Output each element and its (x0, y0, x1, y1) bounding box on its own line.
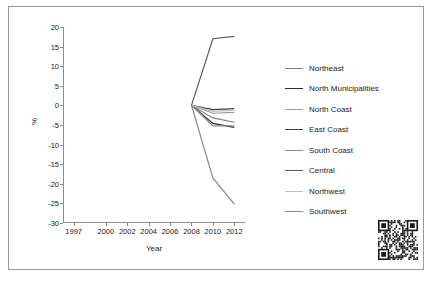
legend-swatch (285, 211, 303, 212)
legend-label: Northwest (309, 187, 345, 196)
legend-label: Northeast (309, 64, 344, 73)
x-tick-mark (234, 223, 235, 226)
legend-label: Southwest (309, 207, 346, 216)
x-tick-mark (74, 223, 75, 226)
legend-swatch (285, 68, 303, 69)
y-tick-label: 20 (51, 23, 59, 32)
x-tick-label: 2006 (162, 227, 179, 236)
x-tick-mark (170, 223, 171, 226)
legend-item[interactable]: Northeast (285, 58, 415, 79)
legend-label: South Coast (309, 146, 353, 155)
y-tick-label: -30 (48, 219, 59, 228)
x-tick-mark (106, 223, 107, 226)
legend-label: North Coast (309, 105, 352, 114)
x-tick-mark (213, 223, 214, 226)
legend-item[interactable]: Southwest (285, 202, 415, 223)
legend-label: East Coast (309, 125, 348, 134)
legend-swatch (285, 88, 303, 89)
legend-swatch (285, 170, 303, 171)
legend-item[interactable]: Northwest (285, 181, 415, 202)
x-tick-mark (127, 223, 128, 226)
legend-swatch (285, 129, 303, 130)
y-tick-label: -25 (48, 199, 59, 208)
y-tick-label: -5 (52, 121, 59, 130)
legend-label: North Municipalities (309, 84, 379, 93)
y-tick-label: 0 (55, 101, 59, 110)
y-tick-mark (60, 203, 63, 204)
y-tick-mark (60, 105, 63, 106)
y-tick-mark (60, 223, 63, 224)
x-tick-mark (149, 223, 150, 226)
x-tick-label: 2010 (205, 227, 222, 236)
y-tick-mark (60, 47, 63, 48)
y-tick-mark (60, 66, 63, 67)
y-tick-mark (60, 184, 63, 185)
x-tick-label: 2002 (119, 227, 136, 236)
y-tick-mark (60, 145, 63, 146)
legend-item[interactable]: South Coast (285, 140, 415, 161)
x-tick-label: 1997 (65, 227, 82, 236)
y-axis-label: % (30, 118, 39, 125)
legend-item[interactable]: North Coast (285, 99, 415, 120)
y-tick-mark (60, 27, 63, 28)
y-tick-label: -15 (48, 160, 59, 169)
chart-frame: % 20151050-5-10-15-20-25-30 199720002002… (8, 6, 424, 270)
x-tick-label: 2004 (140, 227, 157, 236)
qr-code-icon (378, 220, 418, 260)
x-tick-label: 2008 (183, 227, 200, 236)
y-tick-label: 10 (51, 62, 59, 71)
legend-item[interactable]: North Municipalities (285, 79, 415, 100)
legend-swatch (285, 191, 303, 192)
legend-swatch (285, 150, 303, 151)
plot-box (63, 27, 245, 223)
legend-item[interactable]: East Coast (285, 120, 415, 141)
y-tick-mark (60, 86, 63, 87)
y-tick-label: -20 (48, 179, 59, 188)
legend-item[interactable]: Central (285, 161, 415, 182)
y-tick-label: 15 (51, 42, 59, 51)
y-tick-label: -10 (48, 140, 59, 149)
x-tick-mark (191, 223, 192, 226)
x-tick-label: 2000 (97, 227, 114, 236)
chart-legend: NortheastNorth MunicipalitiesNorth Coast… (285, 58, 415, 222)
plot-area: 20151050-5-10-15-20-25-30 19972000200220… (63, 27, 245, 223)
y-tick-mark (60, 164, 63, 165)
legend-label: Central (309, 166, 335, 175)
y-tick-label: 5 (55, 81, 59, 90)
x-axis-label: Year (63, 244, 245, 253)
y-tick-mark (60, 125, 63, 126)
legend-swatch (285, 109, 303, 110)
x-tick-label: 2012 (226, 227, 243, 236)
